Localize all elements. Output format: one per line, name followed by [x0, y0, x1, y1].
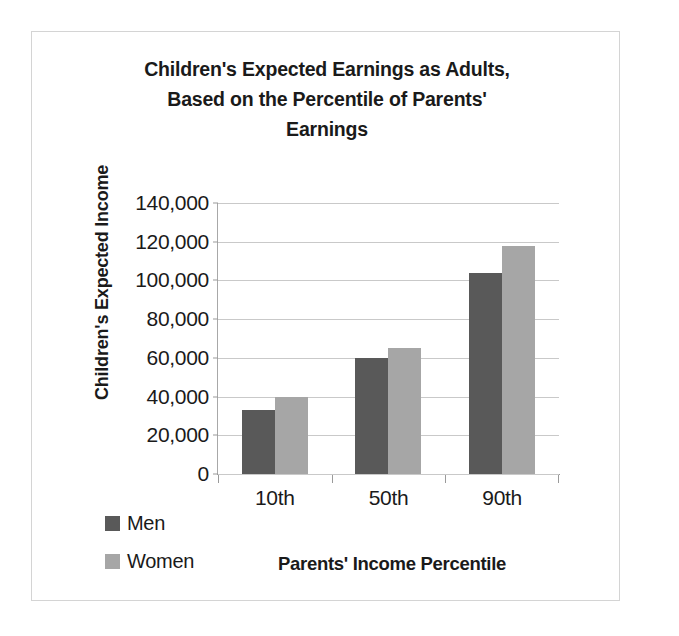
legend-item-men[interactable]: Men	[105, 504, 194, 542]
legend-swatch-icon	[105, 516, 120, 531]
chart-legend: MenWomen	[105, 504, 194, 580]
y-axis-tick-label: 60,000	[147, 346, 209, 370]
y-axis-tick-label: 100,000	[135, 268, 209, 292]
legend-label: Women	[127, 550, 194, 573]
gridline	[218, 474, 559, 475]
chart-frame: Children's Expected Earnings as Adults, …	[31, 31, 620, 601]
bar-women-10th[interactable]	[275, 397, 308, 474]
legend-label: Men	[127, 512, 165, 535]
chart-title: Children's Expected Earnings as Adults, …	[92, 54, 562, 144]
x-axis-category-label: 90th	[445, 486, 559, 510]
y-axis-tick-label: 40,000	[147, 385, 209, 409]
y-axis-tick-label: 0	[198, 462, 209, 486]
x-axis-tick-mark	[445, 475, 446, 483]
x-axis-tick-mark	[218, 475, 219, 483]
legend-swatch-icon	[105, 554, 120, 569]
legend-item-women[interactable]: Women	[105, 542, 194, 580]
y-axis-tick-label: 20,000	[147, 423, 209, 447]
x-axis-title: Parents' Income Percentile	[182, 553, 602, 575]
chart-title-line-2: Based on the Percentile of Parents'	[92, 84, 562, 114]
bar-group: 50th	[332, 203, 446, 474]
bar-group: 90th	[445, 203, 559, 474]
bar-group: 10th	[218, 203, 332, 474]
chart-title-line-1: Children's Expected Earnings as Adults,	[92, 54, 562, 84]
bar-women-90th[interactable]	[502, 246, 535, 474]
x-axis-category-label: 10th	[218, 486, 332, 510]
y-axis-tick-label: 120,000	[135, 230, 209, 254]
x-axis-tick-mark	[558, 475, 559, 483]
x-axis-category-label: 50th	[332, 486, 446, 510]
y-axis-title: Children's Expected Income	[92, 123, 113, 443]
plot-area: 020,00040,00060,00080,000100,000120,0001…	[218, 203, 559, 474]
bar-men-10th[interactable]	[242, 410, 275, 474]
bar-men-50th[interactable]	[355, 358, 388, 474]
x-axis-tick-mark	[332, 475, 333, 483]
bar-men-90th[interactable]	[469, 273, 502, 474]
chart-title-line-3: Earnings	[92, 114, 562, 144]
y-axis-tick-label: 140,000	[135, 191, 209, 215]
bar-women-50th[interactable]	[388, 348, 421, 474]
y-axis-tick-label: 80,000	[147, 307, 209, 331]
